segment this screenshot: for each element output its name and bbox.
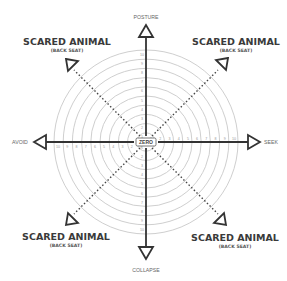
corner-label-top-left: SCARED ANIMAL (BACK SEAT)	[23, 36, 111, 53]
tick-down-10: 10	[140, 228, 144, 232]
tick-left-3: 3	[122, 145, 124, 149]
tick-up-10: 10	[140, 53, 144, 57]
axis-label-posture: POSTURE	[133, 14, 159, 20]
tick-left-10: 10	[56, 145, 60, 149]
tick-right-8: 8	[215, 137, 217, 141]
arrow-up-icon	[139, 25, 153, 37]
tick-right-7: 7	[205, 137, 207, 141]
tick-left-5: 5	[103, 145, 105, 149]
corner-title: SCARED ANIMAL	[192, 36, 280, 47]
center-zero-badge: ZERO	[136, 138, 156, 146]
tick-right-5: 5	[187, 137, 189, 141]
center-label: ZERO	[139, 139, 153, 145]
arrow-bottom-right-icon	[214, 213, 226, 225]
tick-down-2: 2	[141, 155, 143, 159]
tick-left-4: 4	[112, 145, 114, 149]
arrow-top-right-icon	[216, 58, 228, 70]
tick-right-4: 4	[178, 137, 180, 141]
tick-left-8: 8	[76, 145, 78, 149]
corner-subtitle: (BACK SEAT)	[219, 244, 252, 249]
tick-up-5: 5	[141, 99, 143, 103]
tick-up-9: 9	[141, 62, 143, 66]
tick-left-6: 6	[94, 145, 96, 149]
tick-down-8: 8	[141, 210, 143, 214]
arrow-left-icon	[34, 135, 46, 149]
axis-label-collapse: COLLAPSE	[132, 267, 160, 273]
tick-right-2: 2	[159, 137, 161, 141]
arrow-down-icon	[139, 247, 153, 259]
tick-down-6: 6	[141, 192, 143, 196]
tick-up-6: 6	[141, 89, 143, 93]
tick-down-7: 7	[141, 201, 143, 205]
arrow-bottom-left-icon	[66, 213, 78, 225]
tick-right-9: 9	[224, 137, 226, 141]
corner-title: SCARED ANIMAL	[22, 231, 110, 242]
tick-left-9: 9	[66, 145, 68, 149]
arrow-top-left-icon	[66, 59, 78, 71]
tick-down-5: 5	[141, 182, 143, 186]
corner-subtitle: (BACK SEAT)	[51, 48, 84, 53]
corner-title: SCARED ANIMAL	[23, 36, 111, 47]
corner-label-top-right: SCARED ANIMAL (BACK SEAT)	[192, 36, 280, 53]
scared-animal-compass-diagram: 1234567891012345678910123456789101234567…	[0, 0, 287, 281]
corner-title: SCARED ANIMAL	[191, 232, 279, 243]
axis-label-seek: SEEK	[264, 139, 278, 145]
tick-left-7: 7	[85, 145, 87, 149]
corner-label-bottom-left: SCARED ANIMAL (BACK SEAT)	[22, 231, 110, 248]
axis-label-avoid: AVOID	[12, 139, 28, 145]
arrow-right-icon	[248, 135, 260, 149]
tick-down-3: 3	[141, 164, 143, 168]
tick-up-8: 8	[141, 71, 143, 75]
corner-label-bottom-right: SCARED ANIMAL (BACK SEAT)	[191, 232, 279, 249]
tick-down-4: 4	[141, 173, 143, 177]
tick-right-3: 3	[169, 137, 171, 141]
tick-right-6: 6	[196, 137, 198, 141]
tick-up-7: 7	[141, 80, 143, 84]
tick-down-9: 9	[141, 219, 143, 223]
corner-subtitle: (BACK SEAT)	[50, 243, 83, 248]
tick-right-10: 10	[232, 137, 236, 141]
tick-up-4: 4	[141, 108, 143, 112]
tick-left-2: 2	[131, 145, 133, 149]
corner-subtitle: (BACK SEAT)	[220, 48, 253, 53]
tick-up-2: 2	[141, 126, 143, 130]
tick-up-3: 3	[141, 117, 143, 121]
